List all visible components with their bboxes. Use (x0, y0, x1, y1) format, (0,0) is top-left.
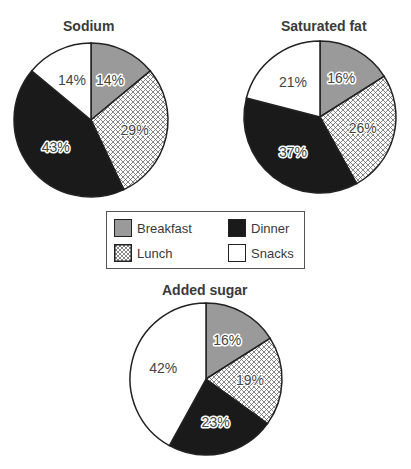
legend-label-breakfast: Breakfast (137, 221, 192, 236)
added-sugar-title: Added sugar (162, 282, 248, 298)
saturated-fat-title: Saturated fat (281, 18, 367, 34)
slice-label-breakfast: 14% (96, 72, 124, 88)
legend-item-dinner: Dinner (228, 219, 289, 237)
added-sugar-pie-chart: 16%19%23%42% (129, 302, 283, 456)
slice-label-snacks: 42% (149, 360, 177, 376)
legend-label-dinner: Dinner (251, 221, 289, 236)
slice-label-breakfast: 16% (327, 70, 355, 86)
breakfast-swatch (114, 219, 132, 237)
sodium-title: Sodium (63, 18, 114, 34)
slice-label-snacks: 21% (279, 74, 307, 90)
legend-label-snacks: Snacks (251, 246, 294, 261)
legend: Breakfast Dinner Lunch Snacks (106, 211, 305, 269)
slice-label-lunch: 19% (236, 372, 264, 388)
slice-label-snacks: 14% (58, 72, 86, 88)
legend-label-lunch: Lunch (137, 246, 172, 261)
sodium-pie-chart: 14%29%43%14% (13, 42, 169, 198)
slice-label-lunch: 26% (349, 120, 377, 136)
dinner-swatch (228, 219, 246, 237)
legend-item-lunch: Lunch (114, 244, 172, 262)
slice-label-dinner: 23% (202, 414, 230, 430)
slice-label-breakfast: 16% (213, 332, 241, 348)
saturated-fat-pie-chart: 16%26%37%21% (243, 40, 397, 194)
lunch-swatch (114, 244, 132, 262)
slice-label-dinner: 43% (42, 139, 70, 155)
slice-label-dinner: 37% (279, 144, 307, 160)
slice-label-lunch: 29% (121, 122, 149, 138)
legend-item-snacks: Snacks (228, 244, 294, 262)
snacks-swatch (228, 244, 246, 262)
legend-item-breakfast: Breakfast (114, 219, 192, 237)
